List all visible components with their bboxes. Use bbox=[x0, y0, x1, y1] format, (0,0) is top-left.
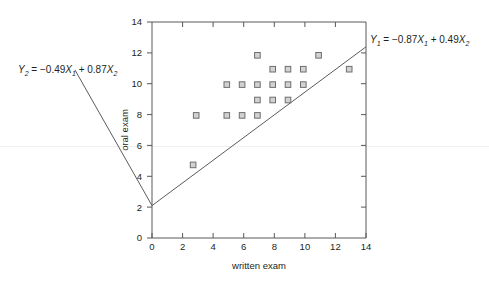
y-tick-label: 0 bbox=[137, 232, 142, 243]
y-tick-label: 2 bbox=[137, 202, 142, 213]
y-axis-title: oral exam bbox=[119, 109, 130, 151]
scatter-plot-figure: 0 2 4 6 8 10 12 14 0 2 4 6 8 10 12 14 wr… bbox=[0, 0, 489, 282]
data-point bbox=[270, 82, 276, 88]
x-tick-label: 8 bbox=[272, 241, 277, 252]
data-point bbox=[255, 82, 261, 88]
svg-text:Y2 = −0.49X1 + 0.87X2: Y2 = −0.49X1 + 0.87X2 bbox=[18, 64, 117, 77]
data-point bbox=[255, 113, 261, 119]
y-tick-label: 6 bbox=[137, 140, 142, 151]
y2-discriminant-line bbox=[75, 70, 152, 206]
y-tick-labels: 0 2 4 6 8 10 12 14 bbox=[131, 16, 142, 243]
data-point bbox=[239, 82, 245, 88]
x-tick-label: 2 bbox=[180, 241, 185, 252]
data-point bbox=[285, 66, 291, 72]
data-point bbox=[285, 97, 291, 103]
equation-y2-var2-sub: 2 bbox=[112, 70, 117, 77]
data-point bbox=[285, 82, 291, 88]
x-tick-label: 12 bbox=[330, 241, 341, 252]
x-axis-title: written exam bbox=[231, 260, 286, 271]
x-tick-label: 4 bbox=[210, 241, 215, 252]
data-point bbox=[255, 53, 261, 59]
data-point bbox=[190, 162, 196, 168]
data-point bbox=[224, 82, 230, 88]
data-points bbox=[190, 53, 352, 168]
data-point bbox=[224, 113, 230, 119]
data-point bbox=[301, 82, 307, 88]
plot-canvas: 0 2 4 6 8 10 12 14 0 2 4 6 8 10 12 14 wr… bbox=[0, 0, 489, 282]
equation-y2: Y2 = −0.49X1 + 0.87X2 bbox=[18, 64, 117, 77]
equation-y1-body: = −0.87 bbox=[381, 34, 418, 45]
data-point bbox=[193, 113, 199, 119]
equation-y1-plus: + 0.49 bbox=[428, 34, 459, 45]
x-tick-label: 14 bbox=[361, 241, 372, 252]
data-point bbox=[270, 97, 276, 103]
x-tick-label: 0 bbox=[149, 241, 154, 252]
svg-text:Y1 = −0.87X1 + 0.49X2: Y1 = −0.87X1 + 0.49X2 bbox=[370, 34, 469, 47]
equation-y2-body: = −0.49 bbox=[29, 64, 66, 75]
y-tick-label: 14 bbox=[131, 16, 142, 27]
data-point bbox=[270, 66, 276, 72]
data-point bbox=[301, 66, 307, 72]
x-tick-labels: 0 2 4 6 8 10 12 14 bbox=[149, 241, 371, 252]
x-tick-label: 10 bbox=[300, 241, 311, 252]
equation-y1: Y1 = −0.87X1 + 0.49X2 bbox=[370, 34, 469, 47]
equation-y1-var2-sub: 2 bbox=[464, 40, 469, 47]
y-tick-label: 10 bbox=[131, 78, 142, 89]
y-tick-label: 8 bbox=[137, 109, 142, 120]
data-point bbox=[346, 66, 352, 72]
equation-y2-plus: + 0.87 bbox=[76, 64, 107, 75]
data-point bbox=[239, 113, 245, 119]
data-point bbox=[316, 53, 322, 59]
x-tick-label: 6 bbox=[241, 241, 246, 252]
y1-discriminant-line bbox=[152, 47, 366, 206]
y-tick-label: 12 bbox=[131, 47, 142, 58]
data-point bbox=[255, 97, 261, 103]
